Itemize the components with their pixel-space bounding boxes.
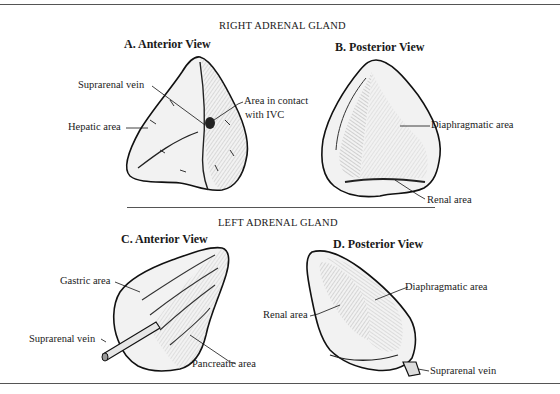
view-title-a: A. Anterior View [124, 38, 211, 50]
label-c-suprarenal-vein: Suprarenal vein [29, 334, 95, 345]
label-b-renal-area: Renal area [427, 195, 472, 206]
section-title-right: RIGHT ADRENAL GLAND [219, 21, 346, 32]
label-b-diaphragmatic-area: Diaphragmatic area [431, 120, 514, 131]
suprarenal-vein-d [403, 362, 420, 376]
label-a-area-in-contact: Area in contact [244, 96, 308, 107]
label-c-gastric-area: Gastric area [60, 276, 110, 287]
gland-b-right-posterior [322, 60, 440, 197]
label-d-suprarenal-vein: Suprarenal vein [430, 366, 496, 377]
label-d-diaphragmatic-area: Diaphragmatic area [405, 282, 488, 293]
label-a-suprarenal-vein: Suprarenal vein [78, 80, 144, 91]
label-c-pancreatic-area: Pancreatic area [192, 359, 256, 370]
view-title-c: C. Anterior View [121, 233, 208, 245]
gland-a-right-anterior [127, 57, 248, 190]
label-a-with-ivc: with IVC [245, 110, 284, 121]
section-title-left: LEFT ADRENAL GLAND [218, 218, 338, 229]
label-a-hepatic-area: Hepatic area [68, 122, 121, 133]
label-d-renal-area: Renal area [263, 310, 308, 321]
gland-d-left-posterior [307, 251, 420, 376]
view-title-b: B. Posterior View [335, 41, 424, 53]
gland-c-left-anterior [102, 248, 229, 371]
view-title-d: D. Posterior View [333, 238, 423, 250]
